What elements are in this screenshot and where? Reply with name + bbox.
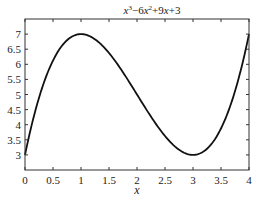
data-line <box>25 34 249 155</box>
y-tick-label: 3 <box>16 149 22 161</box>
y-tick-label: 7 <box>16 28 22 40</box>
chart-title: x3−6x2+9x+3 <box>123 4 181 16</box>
x-tick-label: 1.5 <box>102 174 116 186</box>
chart: x3−6x2+9x+3 00.511.522.533.54 33.544.555… <box>0 0 258 205</box>
y-tick-label: 4 <box>16 119 22 131</box>
y-tick-label: 4.5 <box>7 104 21 116</box>
x-tick-label: 3 <box>190 174 196 186</box>
x-axis-ticks: 00.511.522.533.54 <box>22 19 252 186</box>
x-tick-label: 0 <box>22 174 28 186</box>
x-tick-label: 2.5 <box>158 174 172 186</box>
x-tick-label: 4 <box>246 174 252 186</box>
y-tick-label: 5.5 <box>7 73 21 85</box>
plot-area <box>25 34 249 155</box>
x-tick-label: 0.5 <box>46 174 60 186</box>
x-tick-label: 3.5 <box>214 174 228 186</box>
y-tick-label: 3.5 <box>7 134 21 146</box>
y-tick-label: 5 <box>16 89 22 101</box>
x-axis-label: x <box>133 183 140 197</box>
y-tick-label: 6 <box>16 58 22 70</box>
x-tick-label: 1 <box>78 174 84 186</box>
y-tick-label: 6.5 <box>7 43 21 55</box>
